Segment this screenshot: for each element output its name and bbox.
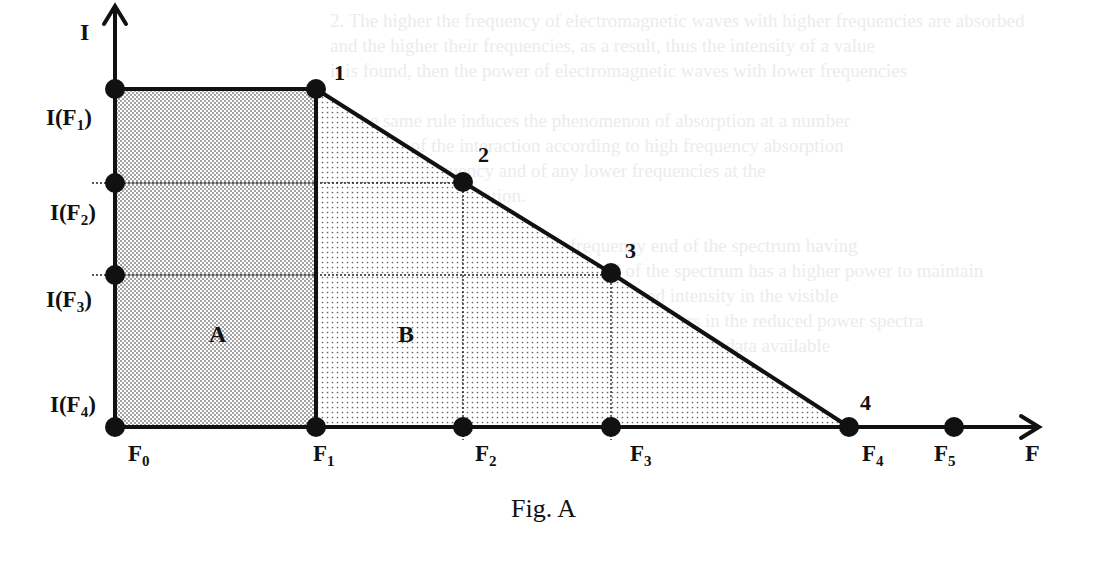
dot-f1	[306, 417, 326, 437]
y-tick-i-f3: I(F3)	[46, 287, 92, 315]
region-label-a: A	[209, 321, 227, 347]
point-label-1: 1	[334, 60, 345, 85]
dot-point-4	[839, 417, 859, 437]
figure-a-diagram: I F I(F1) I(F2) I(F3) I(F4) F0 F1 F2 F3 …	[0, 0, 1110, 567]
region-a	[115, 89, 316, 427]
x-tick-f2: F2	[475, 441, 497, 469]
x-tick-f1: F1	[313, 441, 335, 469]
dot-i-f1	[105, 79, 125, 99]
dot-origin	[105, 417, 125, 437]
x-tick-f0: F0	[128, 441, 150, 469]
x-tick-f4: F4	[862, 441, 884, 469]
y-tick-i-f2: I(F2)	[50, 200, 96, 228]
dot-i-f3	[105, 265, 125, 285]
figure-caption: Fig. A	[511, 494, 576, 523]
dot-f2	[453, 417, 473, 437]
x-axis-label: F	[1025, 440, 1040, 466]
region-label-b: B	[398, 321, 414, 347]
dot-i-f2	[105, 173, 125, 193]
dot-point-3	[601, 263, 621, 283]
point-label-3: 3	[625, 238, 636, 263]
dot-f3	[601, 417, 621, 437]
x-tick-f3: F3	[630, 441, 652, 469]
y-tick-i-f4: I(F4)	[50, 392, 96, 420]
dot-point-1	[306, 79, 326, 99]
dot-f5	[944, 417, 964, 437]
x-tick-f5: F5	[934, 441, 956, 469]
point-label-2: 2	[478, 142, 489, 167]
dot-point-2	[453, 172, 473, 192]
point-label-4: 4	[860, 390, 871, 415]
y-axis-label: I	[80, 19, 89, 45]
y-tick-i-f1: I(F1)	[46, 105, 92, 133]
